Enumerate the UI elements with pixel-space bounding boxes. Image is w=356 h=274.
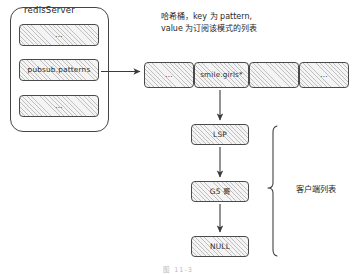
figure-caption: 图 11-3: [0, 264, 356, 274]
client-list-brace: [268, 126, 277, 256]
client-list-label: 客户端列表: [296, 182, 336, 194]
